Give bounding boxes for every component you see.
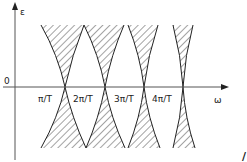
- y-axis: [12, 2, 18, 160]
- origin-label: 0: [4, 76, 10, 86]
- y-axis-arrow-icon: [12, 2, 18, 10]
- x-axis-arrow-icon: [221, 84, 229, 90]
- tick-label-2: 2π/T: [73, 94, 93, 104]
- tick-label-1: π/T: [38, 94, 52, 104]
- y-axis-label: ε: [20, 7, 25, 17]
- stability-diagram: ε 0 π/T 2π/T 3π/T 4π/T ω /: [0, 0, 247, 162]
- tick-label-3: 3π/T: [114, 94, 134, 104]
- tick-label-4: 4π/T: [152, 94, 172, 104]
- x-axis: [3, 84, 229, 90]
- corner-mark: /: [242, 150, 247, 162]
- x-axis-label: ω: [214, 95, 222, 105]
